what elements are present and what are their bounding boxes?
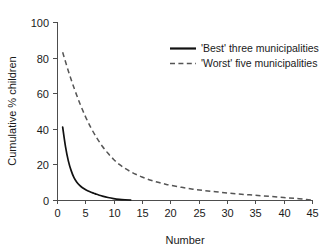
- x-tick-label: 0: [54, 207, 60, 219]
- y-tick-label: 20: [37, 159, 49, 171]
- y-tick-label: 0: [43, 195, 49, 207]
- legend-label-best: 'Best' three municipalities: [201, 42, 319, 54]
- y-tick-label: 100: [31, 17, 49, 29]
- y-tick-label: 80: [37, 53, 49, 65]
- y-tick-label: 40: [37, 124, 49, 136]
- x-tick-label: 25: [193, 207, 205, 219]
- legend-label-worst: 'Worst' five municipalities: [201, 57, 317, 69]
- chart-legend: 'Best' three municipalities 'Worst' five…: [170, 42, 319, 69]
- x-tick-label: 45: [306, 207, 318, 219]
- y-axis-ticks: [53, 23, 57, 201]
- x-axis-title: Number: [165, 234, 204, 246]
- line-chart: 020406080100 051015202530354045 Number C…: [0, 0, 330, 250]
- series-line-worst-five-municipalities: [63, 52, 312, 200]
- y-axis-tick-labels: 020406080100: [31, 17, 49, 207]
- x-tick-label: 5: [82, 207, 88, 219]
- x-tick-label: 15: [136, 207, 148, 219]
- series-group: [63, 52, 312, 200]
- x-tick-label: 35: [249, 207, 261, 219]
- y-tick-label: 60: [37, 88, 49, 100]
- x-axis-tick-labels: 051015202530354045: [54, 207, 318, 219]
- x-tick-label: 30: [221, 207, 233, 219]
- x-tick-label: 10: [108, 207, 120, 219]
- y-axis-title: Cumulative % children: [6, 56, 18, 165]
- chart-container: 020406080100 051015202530354045 Number C…: [0, 0, 330, 250]
- x-tick-label: 20: [164, 207, 176, 219]
- x-tick-label: 40: [278, 207, 290, 219]
